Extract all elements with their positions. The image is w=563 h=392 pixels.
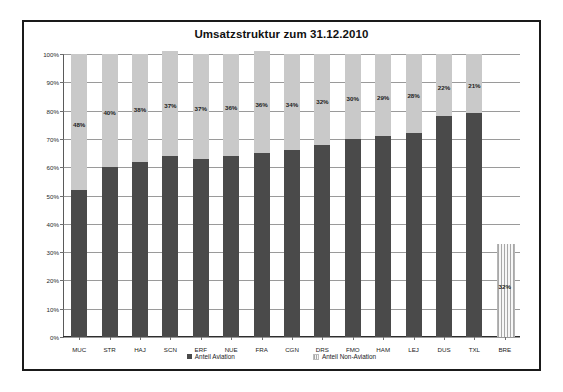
bar-segment-aviation bbox=[314, 145, 330, 337]
y-tick-label: 70% bbox=[47, 135, 59, 142]
bar-data-label: 28% bbox=[397, 92, 431, 99]
y-tick-mark bbox=[60, 337, 64, 338]
x-tick-mark bbox=[383, 337, 384, 340]
chart-title: Umsatzstruktur zum 31.12.2010 bbox=[24, 28, 539, 40]
bar-group: 40%STR bbox=[102, 54, 118, 337]
bar-data-label: 48% bbox=[62, 121, 96, 128]
y-tick-mark bbox=[60, 54, 64, 55]
y-tick-mark bbox=[60, 196, 64, 197]
bar-group: 21%TXL bbox=[466, 54, 482, 337]
bar-group: 28%LEJ bbox=[406, 54, 422, 337]
bar-group: 37%ERF bbox=[193, 54, 209, 337]
bar-data-label: 34% bbox=[275, 101, 309, 108]
bar-segment-aviation bbox=[254, 153, 270, 337]
bar-group: 34%CGN bbox=[284, 54, 300, 337]
bar-group: 29%HAM bbox=[375, 54, 391, 337]
bar-data-label: 29% bbox=[366, 94, 400, 101]
bar-segment-aviation bbox=[406, 133, 422, 337]
chart-frame: Umsatzstruktur zum 31.12.2010 0%10%20%30… bbox=[22, 20, 541, 371]
y-tick-mark bbox=[60, 280, 64, 281]
y-tick-label: 40% bbox=[47, 220, 59, 227]
y-tick-label: 20% bbox=[47, 277, 59, 284]
x-tick-mark bbox=[505, 337, 506, 340]
chart-legend: Anteil AviationAnteil Non-Aviation bbox=[24, 353, 539, 360]
x-tick-mark bbox=[474, 337, 475, 340]
x-tick-mark bbox=[292, 337, 293, 340]
y-tick-label: 50% bbox=[47, 192, 59, 199]
legend-entry[interactable]: Anteil Non-Aviation bbox=[313, 353, 376, 360]
bar-data-label: 40% bbox=[93, 109, 127, 116]
bar-group: 22%DUS bbox=[436, 54, 452, 337]
y-tick-label: 90% bbox=[47, 79, 59, 86]
bar-group: 32%BRE bbox=[497, 54, 513, 337]
y-tick-mark bbox=[60, 111, 64, 112]
bar-data-label: 38% bbox=[123, 106, 157, 113]
x-tick-mark bbox=[170, 337, 171, 340]
bar-group: 38%HAJ bbox=[132, 54, 148, 337]
x-tick-mark bbox=[262, 337, 263, 340]
legend-entry[interactable]: Anteil Aviation bbox=[187, 353, 235, 360]
bar-data-label: 37% bbox=[184, 105, 218, 112]
x-tick-mark bbox=[444, 337, 445, 340]
bar-group: 32%DRS bbox=[314, 54, 330, 337]
y-tick-mark bbox=[60, 82, 64, 83]
legend-label: Anteil Non-Aviation bbox=[322, 353, 376, 360]
bar-data-label: 22% bbox=[427, 84, 461, 91]
legend-label: Anteil Aviation bbox=[195, 353, 235, 360]
x-tick-mark bbox=[201, 337, 202, 340]
y-tick-label: 0% bbox=[50, 334, 59, 341]
bar-segment-aviation bbox=[193, 159, 209, 337]
bar-segment-aviation bbox=[223, 156, 239, 337]
y-tick-label: 30% bbox=[47, 249, 59, 256]
bar-segment-aviation bbox=[162, 156, 178, 337]
bar-data-label: 32% bbox=[488, 283, 522, 290]
bar-data-label: 37% bbox=[153, 102, 187, 109]
y-tick-label: 80% bbox=[47, 107, 59, 114]
y-tick-label: 100% bbox=[43, 51, 59, 58]
bar-data-label: 30% bbox=[336, 95, 370, 102]
bar-group: 36%NUE bbox=[223, 54, 239, 337]
x-tick-mark bbox=[322, 337, 323, 340]
bar-group: 37%SCN bbox=[162, 54, 178, 337]
legend-swatch-icon bbox=[313, 354, 319, 360]
bar-data-label: 36% bbox=[214, 104, 248, 111]
y-tick-mark bbox=[60, 252, 64, 253]
y-tick-mark bbox=[60, 224, 64, 225]
bar-segment-aviation bbox=[436, 116, 452, 337]
x-tick-mark bbox=[353, 337, 354, 340]
bar-segment-aviation bbox=[466, 113, 482, 337]
y-tick-mark bbox=[60, 167, 64, 168]
plot-area: 0%10%20%30%40%50%60%70%80%90%100% 48%MUC… bbox=[64, 54, 520, 337]
bar-segment-aviation bbox=[102, 167, 118, 337]
y-tick-label: 60% bbox=[47, 164, 59, 171]
y-tick-mark bbox=[60, 139, 64, 140]
bar-group: 30%FMO bbox=[345, 54, 361, 337]
x-tick-mark bbox=[110, 337, 111, 340]
legend-swatch-icon bbox=[187, 354, 192, 359]
x-tick-mark bbox=[414, 337, 415, 340]
bar-segment-aviation bbox=[375, 136, 391, 337]
bar-segment-hatched bbox=[497, 244, 515, 337]
bar-data-label: 21% bbox=[457, 82, 491, 89]
bar-segment-aviation bbox=[284, 150, 300, 337]
bar-group: 48%MUC bbox=[71, 54, 87, 337]
bar-data-label: 32% bbox=[305, 98, 339, 105]
x-tick-label: BRE bbox=[486, 346, 524, 353]
bar-group: 36%FRA bbox=[254, 54, 270, 337]
x-tick-mark bbox=[140, 337, 141, 340]
y-tick-mark bbox=[60, 309, 64, 310]
bar-segment-aviation bbox=[71, 190, 87, 337]
bar-data-label: 36% bbox=[245, 101, 279, 108]
x-tick-mark bbox=[231, 337, 232, 340]
bar-segment-aviation bbox=[132, 162, 148, 337]
bar-segment-aviation bbox=[345, 139, 361, 337]
y-tick-label: 10% bbox=[47, 305, 59, 312]
x-tick-mark bbox=[79, 337, 80, 340]
